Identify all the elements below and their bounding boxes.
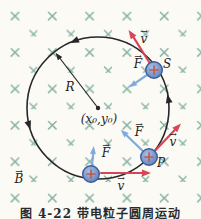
physics-figure-charged-particle-in-field: R (x₀,y₀) S P → B → v → v → v → F → F → … [0,0,201,219]
point-p-label: P [157,157,165,169]
center-coordinates-label: (x₀,y₀) [81,113,117,125]
radius-label: R [65,81,74,93]
force-label-s: → F [134,54,142,70]
magnetic-field-region [0,0,201,205]
velocity-label-s: → v [140,29,148,45]
velocity-label-p: → v [169,132,177,148]
field-b-label: → B [15,169,24,185]
circle-center-dot [96,106,100,110]
force-label-bottom: → F [102,143,110,159]
point-s-label: S [163,58,171,70]
velocity-label-bottom: → v [117,176,125,192]
figure-caption: 图 4-22 带电粒子圆周运动 [0,207,201,219]
charged-particle-p [141,149,158,166]
field-diagram-canvas [0,0,201,219]
charged-particle-bottom [83,166,100,183]
force-label-p: → F [135,122,143,138]
charged-particle-s [146,62,163,79]
